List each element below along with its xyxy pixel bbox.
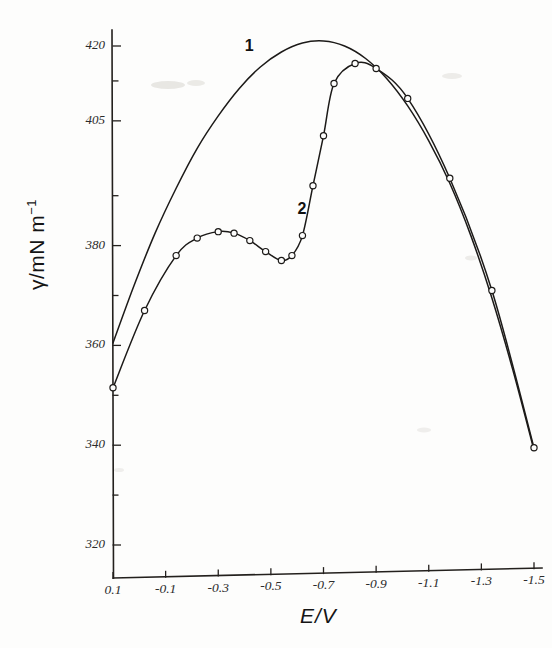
data-curves xyxy=(113,41,534,450)
scan-artifacts xyxy=(114,73,477,472)
curve-2-marker xyxy=(531,445,537,451)
curve-2-marker xyxy=(352,60,358,66)
y-axis-tick-label: 380 xyxy=(59,237,105,253)
y-axis-line xyxy=(112,30,114,578)
y-axis-tick-label: 405 xyxy=(59,112,105,128)
curve-2-marker xyxy=(289,252,295,258)
curve-2-marker xyxy=(373,65,379,71)
y-axis-title: γ/mN m−1 xyxy=(24,145,49,345)
curve-2-marker xyxy=(331,80,337,86)
y-axis-title-text: γ/mN m xyxy=(25,215,48,290)
y-axis-tick-label: 420 xyxy=(59,37,105,53)
y-axis-tick-label: 360 xyxy=(59,336,105,352)
curve-2-label: 2 xyxy=(297,200,306,218)
curve-2-marker xyxy=(215,229,221,235)
curve-2-marker xyxy=(247,238,253,244)
y-axis-title-exponent: −1 xyxy=(24,199,39,215)
curve-2-marker xyxy=(194,235,200,241)
curve-2-marker xyxy=(231,230,237,236)
x-axis-tick-label: -0.3 xyxy=(194,580,242,596)
x-axis-tick-label: -0.1 xyxy=(142,581,190,597)
curve-1-path xyxy=(113,41,534,450)
curve-2-marker xyxy=(173,252,179,258)
data-point-markers xyxy=(110,60,537,450)
curve-1-label: 1 xyxy=(245,37,254,55)
x-axis-title: E/V xyxy=(300,604,337,628)
x-axis-tick-label: -0.7 xyxy=(300,577,348,593)
curve-2-marker xyxy=(320,133,326,139)
x-axis-tick-label: -1.3 xyxy=(457,573,505,589)
curve-2-marker xyxy=(489,287,495,293)
curve-2-marker xyxy=(278,257,284,263)
electrocapillary-chart-figure: γ/mN m−1 E/V 420405380360340320 0.1-0.1-… xyxy=(0,0,552,648)
curve-2-marker xyxy=(299,233,305,239)
curve-2-marker xyxy=(110,385,116,391)
x-axis-tick-label: -1.1 xyxy=(405,575,453,591)
curve-2-marker xyxy=(141,307,147,313)
x-axis-tick-label: 0.1 xyxy=(89,582,137,598)
curve-2-marker xyxy=(447,175,453,181)
x-axis-tick-label: -0.9 xyxy=(352,576,400,592)
x-axis-tick-label: -1.5 xyxy=(510,572,552,588)
curve-2-marker xyxy=(405,95,411,101)
x-axis-tick-label: -0.5 xyxy=(247,578,295,594)
y-axis-tick-label: 340 xyxy=(59,436,105,452)
y-axis-tick-label: 320 xyxy=(59,536,105,552)
curve-2-marker xyxy=(310,183,316,189)
curve-2-marker xyxy=(263,248,269,254)
